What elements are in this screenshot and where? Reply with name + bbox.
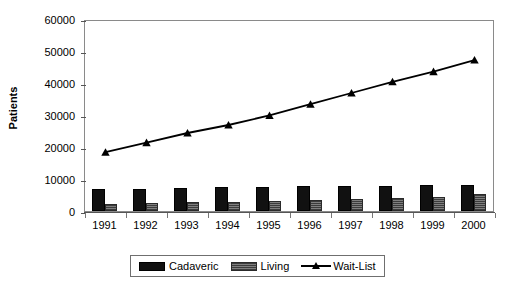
x-axis-tick-label: 1996 bbox=[297, 219, 321, 231]
bar-group bbox=[372, 21, 413, 211]
x-axis-tick-label: 1992 bbox=[133, 219, 157, 231]
x-axis-tick-label: 1991 bbox=[92, 219, 116, 231]
bar-cadaveric bbox=[338, 186, 351, 211]
bar-cadaveric bbox=[174, 188, 187, 211]
x-axis-tick-mark bbox=[249, 213, 250, 218]
bar-cadaveric bbox=[461, 185, 474, 211]
legend-swatch-waitlist-icon bbox=[301, 261, 331, 271]
x-axis-tick-mark bbox=[495, 213, 496, 218]
x-axis-tick-mark bbox=[413, 213, 414, 218]
y-axis-tick-label: 50000 bbox=[44, 47, 75, 58]
x-axis-tick-label: 1999 bbox=[420, 219, 444, 231]
y-axis-tick-label: 20000 bbox=[44, 143, 75, 154]
x-axis-tick-mark bbox=[85, 213, 86, 218]
y-axis-tick-labels: 0100002000030000400005000060000 bbox=[24, 20, 79, 212]
x-axis-tick-mark bbox=[167, 213, 168, 218]
y-axis-title: Patients bbox=[2, 0, 24, 215]
bar-cadaveric bbox=[420, 185, 433, 211]
x-axis-tick-label: 1997 bbox=[338, 219, 362, 231]
bar-cadaveric bbox=[297, 186, 310, 211]
x-axis-tick-label: 1995 bbox=[256, 219, 280, 231]
bar-living bbox=[310, 200, 322, 211]
bar-group bbox=[208, 21, 249, 211]
chart-legend: CadavericLivingWait-List bbox=[130, 255, 385, 277]
legend-label: Wait-List bbox=[333, 261, 375, 272]
y-axis-tick-label: 30000 bbox=[44, 111, 75, 122]
bar-cadaveric bbox=[133, 189, 146, 211]
x-axis-tick-label: 2000 bbox=[461, 219, 485, 231]
x-axis-tick-mark bbox=[208, 213, 209, 218]
bar-living bbox=[392, 198, 404, 211]
bar-group bbox=[85, 21, 126, 211]
plot-area bbox=[84, 20, 494, 212]
legend-label: Cadaveric bbox=[169, 261, 219, 272]
bar-living bbox=[228, 202, 240, 211]
chart-figure: Patients 0100002000030000400005000060000… bbox=[0, 0, 512, 291]
x-axis-tick-mark bbox=[331, 213, 332, 218]
bar-group bbox=[249, 21, 290, 211]
bar-living bbox=[351, 199, 363, 211]
bar-living bbox=[474, 194, 486, 211]
x-axis-tick-label: 1994 bbox=[215, 219, 239, 231]
bar-group bbox=[126, 21, 167, 211]
bar-living bbox=[146, 203, 158, 211]
x-axis-tick-mark bbox=[126, 213, 127, 218]
legend-triangle-icon bbox=[312, 262, 320, 269]
x-axis-tick-label: 1993 bbox=[174, 219, 198, 231]
bar-living bbox=[105, 204, 117, 211]
y-axis-tick-label: 0 bbox=[69, 207, 75, 218]
bar-living bbox=[433, 197, 445, 211]
bar-cadaveric bbox=[215, 187, 228, 211]
bar-living bbox=[269, 201, 281, 211]
bar-group bbox=[331, 21, 372, 211]
bar-group bbox=[454, 21, 495, 211]
bar-cadaveric bbox=[256, 187, 269, 211]
bar-cadaveric bbox=[379, 186, 392, 211]
bar-group bbox=[290, 21, 331, 211]
legend-swatch-cadaveric-icon bbox=[139, 262, 165, 271]
bar-group bbox=[413, 21, 454, 211]
y-axis-title-text: Patients bbox=[7, 86, 19, 129]
x-axis-tick-label: 1998 bbox=[379, 219, 403, 231]
bar-group bbox=[167, 21, 208, 211]
bar-cadaveric bbox=[92, 189, 105, 211]
x-axis-tick-mark bbox=[290, 213, 291, 218]
x-axis-tick-labels: 1991199219931994199519961997199819992000 bbox=[84, 219, 494, 235]
legend-label: Living bbox=[261, 261, 290, 272]
y-axis-tick-label: 60000 bbox=[44, 15, 75, 26]
x-axis-tick-mark bbox=[454, 213, 455, 218]
y-axis-tick-label: 10000 bbox=[44, 175, 75, 186]
y-axis-tick-label: 40000 bbox=[44, 79, 75, 90]
legend-swatch-living-icon bbox=[231, 262, 257, 271]
bar-living bbox=[187, 202, 199, 211]
legend-item[interactable]: Cadaveric bbox=[139, 261, 219, 272]
legend-item[interactable]: Wait-List bbox=[301, 261, 375, 272]
legend-item[interactable]: Living bbox=[231, 261, 290, 272]
x-axis-tick-mark bbox=[372, 213, 373, 218]
